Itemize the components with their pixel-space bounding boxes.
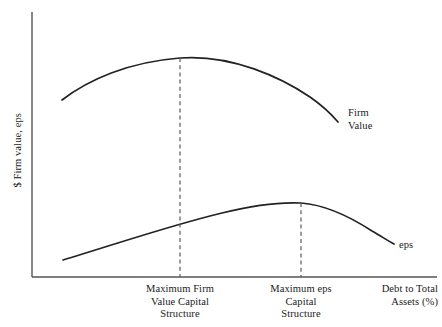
chart-plot-area (0, 0, 442, 327)
max-eps-tick-label: Maximum eps Capital Structure (247, 283, 355, 321)
capital-structure-chart: $ Firm value, eps Maximum Firm Value Cap… (0, 0, 442, 327)
eps-curve (63, 203, 394, 260)
firm-value-series-label: Firm Value (348, 107, 408, 132)
firm-value-curve (62, 58, 338, 122)
x-axis-title: Debt to Total Assets (%) (352, 283, 438, 308)
y-axis-title: $ Firm value, eps (12, 80, 25, 220)
max-firm-value-tick-label: Maximum Firm Value Capital Structure (116, 283, 244, 321)
eps-series-label: eps (399, 239, 439, 252)
